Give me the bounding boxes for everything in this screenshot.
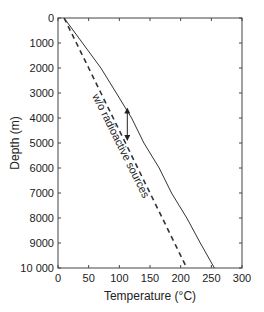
- y-tick-label: 5000: [30, 137, 54, 149]
- plot-frame: [58, 18, 242, 268]
- y-tick-label: 8000: [30, 212, 54, 224]
- x-tick-label: 300: [233, 272, 251, 284]
- x-tick-label: 250: [202, 272, 220, 284]
- y-tick-label: 7000: [30, 187, 54, 199]
- y-tick-label: 9000: [30, 237, 54, 249]
- y-tick-label: 4000: [30, 112, 54, 124]
- y-tick-label: 10 000: [20, 262, 54, 274]
- series-with-radioactive: [64, 18, 214, 268]
- y-tick-label: 1000: [30, 37, 54, 49]
- y-axis-label: Depth (m): [8, 116, 22, 169]
- y-tick-label: 2000: [30, 62, 54, 74]
- x-tick-label: 100: [110, 272, 128, 284]
- temperature-depth-chart: 050100150200250300 010002000300040005000…: [0, 0, 264, 312]
- x-tick-label: 50: [83, 272, 95, 284]
- y-tick-label: 3000: [30, 87, 54, 99]
- series-lines: [64, 18, 214, 268]
- y-tick-label: 6000: [30, 162, 54, 174]
- x-tick-label: 0: [55, 272, 61, 284]
- x-tick-label: 200: [171, 272, 189, 284]
- y-tick-label: 0: [48, 12, 54, 24]
- x-axis-label: Temperature (°C): [104, 289, 196, 303]
- y-axis-ticks: 010002000300040005000600070008000900010 …: [20, 12, 242, 274]
- x-tick-label: 150: [141, 272, 159, 284]
- x-axis-ticks: 050100150200250300: [55, 18, 251, 284]
- series-annotation-label: w/o radioactive sources: [90, 91, 153, 201]
- annotations: w/o radioactive sources: [90, 91, 153, 201]
